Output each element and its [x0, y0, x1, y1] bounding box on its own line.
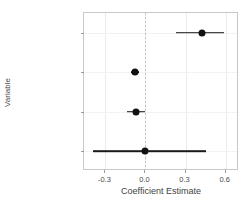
- y-tick-mark-3: [81, 151, 84, 152]
- data-point: [131, 69, 138, 76]
- y-axis-title: Variable: [3, 60, 12, 126]
- x-tick-label-2: 0.3: [179, 175, 189, 184]
- x-tick-mark-3: [225, 170, 226, 173]
- x-tick-mark-2: [185, 170, 186, 173]
- y-tick-mark-0: [81, 33, 84, 34]
- plot-title: [0, 0, 248, 4]
- gridline-y-2: [84, 112, 237, 113]
- x-tick-mark-1: [144, 170, 145, 173]
- x-tick-label-3: 0.6: [219, 175, 229, 184]
- x-tick-label-1: 0.0: [139, 175, 149, 184]
- data-point: [133, 108, 140, 115]
- x-axis-title: Coefficient Estimate: [83, 186, 239, 196]
- x-tick-label-0: -0.3: [98, 175, 111, 184]
- gridline-x-0: [105, 13, 106, 169]
- gridline-y-1: [84, 72, 237, 73]
- coefficient-plot-figure: Variable Coefficient Estimate -0.30.00.3…: [0, 0, 248, 205]
- gridline-x-3: [226, 13, 227, 169]
- data-point: [198, 29, 205, 36]
- y-tick-mark-1: [81, 72, 84, 73]
- error-bar: [93, 150, 205, 152]
- zero-reference-line: [145, 13, 146, 169]
- gridline-x-2: [186, 13, 187, 169]
- y-tick-mark-2: [81, 112, 84, 113]
- plot-panel: [83, 12, 238, 170]
- x-tick-mark-0: [104, 170, 105, 173]
- data-point: [142, 148, 149, 155]
